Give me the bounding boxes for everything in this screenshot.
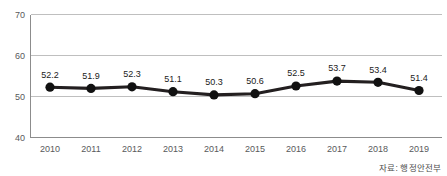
x-tick-label-2014: 2014 — [204, 144, 224, 154]
data-label-2016: 52.5 — [287, 68, 305, 78]
chart-plot-area: 70 60 50 40 52.2 51.9 52.3 51.1 50.3 50.… — [0, 0, 447, 176]
line-chart: 70 60 50 40 52.2 51.9 52.3 51.1 50.3 50.… — [0, 0, 447, 176]
source-note: 자료: 행정안전부 — [379, 161, 441, 173]
data-point-2018 — [373, 78, 382, 87]
data-label-2012: 52.3 — [123, 69, 141, 79]
data-label-2017: 53.7 — [328, 63, 346, 73]
data-label-2019: 51.4 — [410, 73, 428, 83]
data-label-2015: 50.6 — [246, 76, 264, 86]
series-line-path — [50, 81, 419, 95]
y-axis-tick-labels: 70 60 50 40 — [15, 10, 25, 143]
x-tick-label-2017: 2017 — [327, 144, 347, 154]
data-point-2011 — [86, 84, 95, 93]
data-point-2016 — [291, 81, 300, 90]
x-tick-label-2015: 2015 — [245, 144, 265, 154]
data-point-labels: 52.2 51.9 52.3 51.1 50.3 50.6 52.5 53.7 … — [41, 63, 428, 87]
data-label-2014: 50.3 — [205, 77, 223, 87]
data-point-2013 — [168, 87, 177, 96]
x-axis-tick-labels: 2010 2011 2012 2013 2014 2015 2016 2017 … — [40, 144, 429, 154]
data-label-2013: 51.1 — [164, 74, 182, 84]
x-tick-label-2012: 2012 — [122, 144, 142, 154]
data-point-2015 — [250, 89, 259, 98]
x-tick-label-2019: 2019 — [409, 144, 429, 154]
y-tick-label-50: 50 — [15, 92, 25, 102]
x-tick-label-2016: 2016 — [286, 144, 306, 154]
data-point-2017 — [332, 77, 341, 86]
y-tick-label-40: 40 — [15, 133, 25, 143]
data-label-2018: 53.4 — [369, 65, 387, 75]
y-tick-label-70: 70 — [15, 10, 25, 20]
data-point-2014 — [209, 90, 218, 99]
data-label-2011: 51.9 — [82, 71, 100, 81]
data-point-2019 — [414, 86, 423, 95]
data-point-2012 — [127, 82, 136, 91]
x-tick-label-2011: 2011 — [81, 144, 100, 154]
y-tick-label-60: 60 — [15, 51, 25, 61]
x-tick-label-2018: 2018 — [368, 144, 388, 154]
x-tick-label-2013: 2013 — [163, 144, 183, 154]
x-tick-label-2010: 2010 — [40, 144, 60, 154]
data-point-2010 — [45, 83, 54, 92]
data-label-2010: 52.2 — [41, 70, 59, 80]
